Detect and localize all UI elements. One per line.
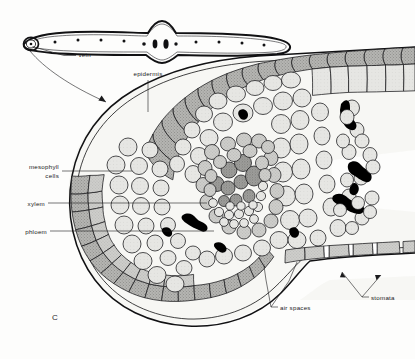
label-air-spaces: air spaces	[280, 304, 311, 311]
label-phloem: phloem	[25, 228, 47, 235]
figure-canvas: vein	[0, 0, 415, 359]
palisade-cells-right	[312, 64, 415, 95]
upper-epidermis-right-strip	[312, 64, 415, 95]
label-vein: vein	[79, 51, 92, 58]
label-xylem: xylem	[28, 200, 45, 207]
label-stomata: stomata	[371, 294, 395, 301]
label-epidermis: epidermis	[133, 70, 162, 77]
label-mesophyll-line2: cells	[45, 172, 59, 179]
label-mesophyll-line1: mesophyll	[29, 163, 59, 170]
panel-letter: C	[52, 313, 58, 322]
leaf-cross-section-figure: vein	[0, 0, 415, 359]
